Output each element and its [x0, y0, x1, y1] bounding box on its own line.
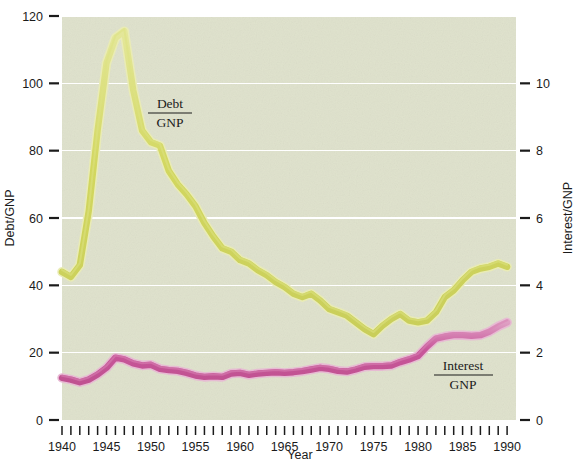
bottom-tick-label: 1990	[493, 440, 521, 454]
left-tick-label: 60	[29, 212, 43, 226]
left-tick-label: 100	[22, 77, 43, 91]
left-tick-label: 40	[29, 279, 43, 293]
svg-text:Debt: Debt	[157, 96, 183, 111]
left-axis-title: Debt/GNP	[3, 190, 17, 247]
bottom-tick-label: 1945	[93, 440, 121, 454]
chart-canvas: 020406080100120 0246810 1940194519501955…	[0, 0, 584, 465]
chart-figure: 020406080100120 0246810 1940194519501955…	[0, 0, 584, 465]
bottom-tick-label: 1970	[315, 440, 343, 454]
right-tick-label: 10	[536, 77, 550, 91]
right-tick-label: 4	[536, 279, 543, 293]
left-tick-label: 80	[29, 144, 43, 158]
right-tick-label: 0	[536, 414, 543, 428]
svg-text:GNP: GNP	[449, 377, 476, 392]
left-tick-label: 0	[36, 414, 43, 428]
right-tick-label: 6	[536, 212, 543, 226]
left-axis-ticks: 020406080100120	[22, 10, 59, 428]
left-tick-label: 20	[29, 346, 43, 360]
bottom-tick-label: 1955	[182, 440, 210, 454]
svg-text:Interest: Interest	[443, 358, 484, 373]
bottom-tick-label: 1950	[137, 440, 165, 454]
bottom-tick-label: 1980	[404, 440, 432, 454]
bottom-axis-ticks: 1940194519501955196019651970197519801985…	[48, 426, 521, 454]
right-axis-ticks: 0246810	[520, 77, 550, 428]
left-tick-label: 120	[22, 10, 43, 24]
bottom-tick-label: 1975	[360, 440, 388, 454]
right-tick-label: 2	[536, 346, 543, 360]
bottom-tick-label: 1940	[48, 440, 76, 454]
bottom-tick-label: 1960	[226, 440, 254, 454]
bottom-tick-label: 1985	[449, 440, 477, 454]
right-axis-title: Interest/GNP	[561, 182, 575, 254]
bottom-axis-title: Year	[287, 448, 312, 462]
right-tick-label: 8	[536, 144, 543, 158]
svg-text:GNP: GNP	[156, 115, 183, 130]
